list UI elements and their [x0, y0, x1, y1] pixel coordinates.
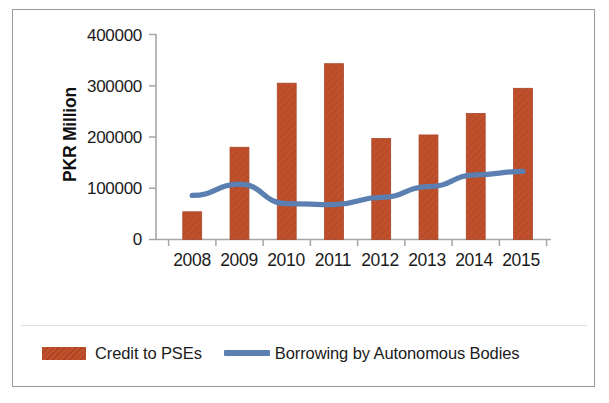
line-swatch-icon [224, 350, 270, 356]
bar-2012 [372, 139, 391, 240]
legend-divider [21, 325, 587, 326]
bar-2010 [277, 83, 296, 239]
bar-2008 [183, 212, 202, 240]
bar-series-credit-to-pses [183, 64, 533, 240]
x-axis-ticks [169, 240, 547, 247]
bar-2015 [514, 88, 533, 239]
legend-label-borrowing-by-autonomous-bodies: Borrowing by Autonomous Bodies [275, 344, 520, 363]
legend-item-credit-to-pses[interactable]: Credit to PSEs [42, 344, 202, 363]
legend-label-credit-to-pses: Credit to PSEs [95, 344, 202, 363]
axis-lines [156, 34, 551, 240]
legend-item-borrowing-by-autonomous-bodies[interactable]: Borrowing by Autonomous Bodies [224, 344, 520, 363]
bar-2011 [325, 64, 344, 240]
chart-figure: PKR Million 0 100000 200000 300000 40000… [0, 0, 609, 403]
y-axis-ticks [149, 35, 156, 240]
bar-swatch-icon [42, 347, 86, 360]
bar-2009 [230, 147, 249, 239]
chart-legend: Credit to PSEs Borrowing by Autonomous B… [28, 336, 580, 370]
